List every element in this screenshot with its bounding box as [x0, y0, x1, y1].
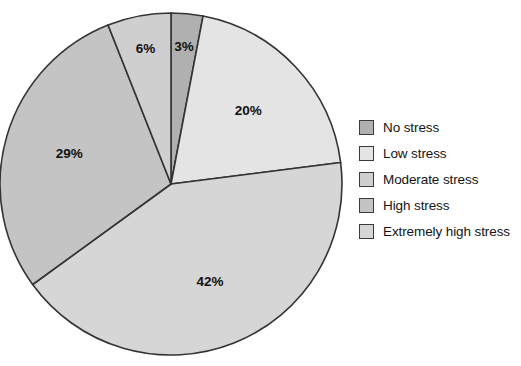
pie-slice-value-label: 3% — [174, 39, 194, 54]
pie-slice-value-label: 29% — [56, 146, 83, 161]
legend-item-label: Low stress — [383, 146, 447, 161]
legend-item-label: High stress — [383, 198, 449, 213]
pie-slice-value-label: 20% — [235, 103, 262, 118]
legend-swatch-icon — [359, 198, 374, 213]
legend-item-label: Extremely high stress — [383, 224, 510, 239]
legend-swatch-icon — [359, 146, 374, 161]
legend-item-label: Moderate stress — [383, 172, 478, 187]
legend-swatch-icon — [359, 172, 374, 187]
legend-item-high-stress[interactable]: High stress — [359, 192, 519, 218]
pie-slice-value-label: 42% — [196, 274, 223, 289]
pie-slices-group — [0, 13, 342, 355]
pie-chart: 3%20%42%29%6% No stressLow stressModerat… — [0, 0, 521, 366]
legend-item-extremely-high-stress[interactable]: Extremely high stress — [359, 218, 519, 244]
legend-item-moderate-stress[interactable]: Moderate stress — [359, 166, 519, 192]
legend-swatch-icon — [359, 224, 374, 239]
legend-item-no-stress[interactable]: No stress — [359, 114, 519, 140]
chart-legend: No stressLow stressModerate stressHigh s… — [359, 114, 519, 244]
legend-swatch-icon — [359, 120, 374, 135]
legend-item-low-stress[interactable]: Low stress — [359, 140, 519, 166]
pie-slice-value-label: 6% — [136, 41, 156, 56]
legend-item-label: No stress — [383, 120, 439, 135]
